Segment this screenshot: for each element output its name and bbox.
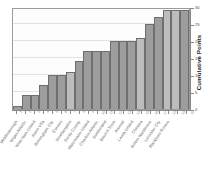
bar xyxy=(83,51,92,109)
cumulative-points-bar-chart: 051015202530 Cumulative Points 1Middlesb… xyxy=(0,0,213,173)
bar xyxy=(180,10,189,109)
x-axis-labels: 1Middlesbrough2Wigan Athletic3West Ham U… xyxy=(12,114,190,173)
bar xyxy=(101,51,110,109)
bar xyxy=(31,95,40,109)
y-axis-tick xyxy=(190,42,194,43)
bar xyxy=(92,51,101,109)
bar xyxy=(57,75,66,109)
bar xyxy=(163,10,172,109)
x-axis-index-label: 17 xyxy=(163,110,169,116)
y-axis-title: Cumulative Points xyxy=(195,35,202,91)
x-axis-index-label: 18 xyxy=(171,110,177,116)
y-axis-tick-label: 30 xyxy=(195,6,200,10)
x-axis-index-label: 9 xyxy=(90,110,94,114)
x-axis-index-label: 16 xyxy=(154,110,160,116)
bar xyxy=(66,72,75,109)
x-axis-index-label: 15 xyxy=(145,110,151,116)
y-axis-tick xyxy=(190,93,194,94)
bar xyxy=(171,10,180,109)
bar xyxy=(48,75,57,109)
x-axis-index-label: 10 xyxy=(100,110,106,116)
bar xyxy=(127,41,136,109)
plot-area xyxy=(12,8,190,110)
bar-series xyxy=(13,9,189,109)
y-axis-tick xyxy=(190,25,194,26)
bar xyxy=(136,38,145,109)
bar xyxy=(154,17,163,109)
y-axis-tick xyxy=(190,8,194,9)
y-axis-tick-label: 5 xyxy=(195,91,197,95)
bar xyxy=(75,61,84,109)
bar xyxy=(119,41,128,109)
x-axis-index-label: 20 xyxy=(189,110,195,116)
y-axis-tick xyxy=(190,59,194,60)
x-axis-index-label: 14 xyxy=(136,110,142,116)
bar xyxy=(145,24,154,109)
bar xyxy=(110,41,119,109)
bar xyxy=(13,106,22,109)
bar xyxy=(22,95,31,109)
y-axis-tick-label: 25 xyxy=(195,23,200,27)
y-axis-tick xyxy=(190,76,194,77)
x-axis-index-label: 19 xyxy=(180,110,186,116)
bar xyxy=(39,85,48,109)
